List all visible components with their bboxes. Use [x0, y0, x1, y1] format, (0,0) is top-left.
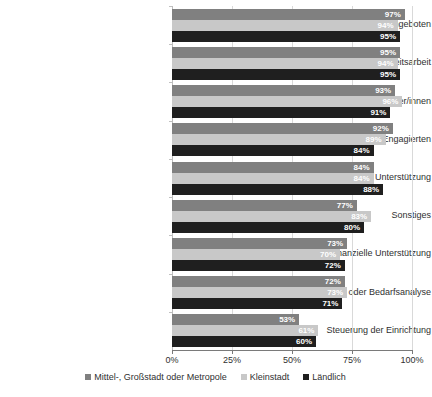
bar-row: 88%: [172, 184, 412, 195]
bar-value-label: 95%: [366, 47, 396, 58]
axis-tick-label-0: 0%: [152, 355, 192, 365]
bar-value-label: 77%: [323, 200, 353, 211]
bar-row: 95%: [172, 31, 412, 42]
bar-row: 73%: [172, 238, 412, 249]
category-tick: [169, 235, 172, 236]
bar-row: 91%: [172, 107, 412, 118]
bar-row: 89%: [172, 134, 412, 145]
legend: Mittel-, Großstadt oder MetropoleKleinst…: [0, 372, 431, 382]
bar-value-label: 73%: [313, 238, 343, 249]
bar-value-label: 84%: [340, 162, 370, 173]
category-tick: [169, 312, 172, 313]
bar-value-label: 95%: [366, 69, 396, 80]
category-tick: [169, 197, 172, 198]
axis-tick-50: [292, 350, 293, 354]
bar-value-label: 73%: [313, 287, 343, 298]
legend-swatch-icon: [241, 374, 247, 380]
bar-value-label: 97%: [371, 9, 401, 20]
legend-item[interactable]: Kleinstadt: [241, 372, 290, 382]
legend-label: Ländlich: [312, 372, 346, 382]
axis-tick-label-75: 75%: [332, 355, 372, 365]
gridline-100: [412, 6, 413, 350]
category-tick: [169, 44, 172, 45]
category-tick: [169, 82, 172, 83]
bar-row: 96%: [172, 96, 412, 107]
legend-item[interactable]: Ländlich: [303, 372, 346, 382]
legend-label: Kleinstadt: [250, 372, 290, 382]
bar-value-label: 93%: [361, 85, 391, 96]
bar-group: 97%94%95%: [172, 9, 412, 42]
bar-value-label: 61%: [284, 325, 314, 336]
legend-label: Mittel-, Großstadt oder Metropole: [94, 372, 227, 382]
bar-row: 94%: [172, 58, 412, 69]
bar-value-label: 84%: [340, 145, 370, 156]
bar-value-label: 89%: [352, 134, 382, 145]
axis-tick-100: [412, 350, 413, 354]
bar-value-label: 70%: [306, 249, 336, 260]
bar-value-label: 94%: [364, 20, 394, 31]
bar-value-label: 91%: [356, 107, 386, 118]
bar-row: 83%: [172, 211, 412, 222]
axis-tick-label-100: 100%: [392, 355, 432, 365]
bar-value-label: 72%: [311, 260, 341, 271]
bar-row: 71%: [172, 298, 412, 309]
axis-tick-label-25: 25%: [212, 355, 252, 365]
bar-group: 53%61%60%: [172, 314, 412, 347]
bar-row: 80%: [172, 222, 412, 233]
bar-group: 95%94%95%: [172, 47, 412, 80]
category-tick: [169, 274, 172, 275]
bar-group: 93%96%91%: [172, 85, 412, 118]
bar-group: 92%89%84%: [172, 123, 412, 156]
axis-tick-0: [172, 350, 173, 354]
bar-value-label: 88%: [349, 184, 379, 195]
bar-value-label: 72%: [311, 276, 341, 287]
bar-row: 92%: [172, 123, 412, 134]
bar-value-label: 95%: [366, 31, 396, 42]
bar-value-label: 83%: [337, 211, 367, 222]
bar-value-label: 53%: [265, 314, 295, 325]
bar-row: 61%: [172, 325, 412, 336]
bar-row: 72%: [172, 276, 412, 287]
bar-value-label: 84%: [340, 173, 370, 184]
bar-row: 73%: [172, 287, 412, 298]
legend-swatch-icon: [303, 374, 309, 380]
bar-row: 97%: [172, 9, 412, 20]
bar-value-label: 80%: [330, 222, 360, 233]
bar-group: 73%70%72%: [172, 238, 412, 271]
bar-row: 84%: [172, 145, 412, 156]
bar-row: 77%: [172, 200, 412, 211]
bar-row: 84%: [172, 162, 412, 173]
bar-group: 72%73%71%: [172, 276, 412, 309]
bar-group: 77%83%80%: [172, 200, 412, 233]
bar-value-label: 94%: [364, 58, 394, 69]
bar-row: 95%: [172, 69, 412, 80]
axis-tick-label-50: 50%: [272, 355, 312, 365]
bar-row: 95%: [172, 47, 412, 58]
legend-item[interactable]: Mittel-, Großstadt oder Metropole: [85, 372, 227, 382]
bar-row: 93%: [172, 85, 412, 96]
axis-tick-75: [352, 350, 353, 354]
category-tick: [169, 6, 172, 7]
bar-row: 84%: [172, 173, 412, 184]
bar-row: 53%: [172, 314, 412, 325]
legend-swatch-icon: [85, 374, 91, 380]
bar-value-label: 71%: [308, 298, 338, 309]
plot-area: 97%94%95%95%94%95%93%96%91%92%89%84%84%8…: [172, 6, 412, 350]
bar-row: 60%: [172, 336, 412, 347]
bar-value-label: 92%: [359, 123, 389, 134]
axis-tick-25: [232, 350, 233, 354]
bar-row: 72%: [172, 260, 412, 271]
bar-row: 70%: [172, 249, 412, 260]
bar-value-label: 60%: [282, 336, 312, 347]
bar-group: 84%84%88%: [172, 162, 412, 195]
bar-row: 94%: [172, 20, 412, 31]
category-tick: [169, 159, 172, 160]
bar-value-label: 96%: [368, 96, 398, 107]
category-tick: [169, 121, 172, 122]
